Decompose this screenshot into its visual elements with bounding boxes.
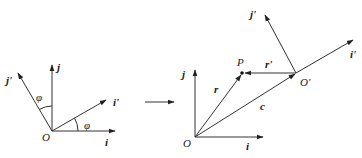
vector-c — [195, 74, 295, 137]
angle-label-top: φ — [36, 91, 42, 103]
point-p-label: P — [236, 56, 244, 68]
left-j-prime-label: j' — [4, 74, 12, 86]
angle-label-bottom: φ — [84, 119, 90, 131]
diagram-canvas: O i j i' j' φ φ O O' P i j i' j' r r' c — [0, 0, 362, 158]
right-frame: O O' P i j i' j' r r' c — [180, 8, 356, 152]
vector-r-label: r — [214, 83, 219, 95]
moving-origin-label: O' — [300, 76, 311, 88]
right-i-label: i — [246, 140, 250, 152]
angle-arc-top — [39, 106, 52, 109]
vector-c-label: c — [260, 100, 265, 112]
vector-r-prime-label: r' — [265, 58, 272, 70]
left-i-prime-label: i' — [113, 96, 119, 108]
left-j-label: j — [55, 61, 61, 73]
coordinate-frames-diagram: O i j i' j' φ φ O O' P i j i' j' r r' c — [0, 0, 362, 158]
angle-arc-bottom — [75, 118, 79, 131]
left-j-prime-axis — [18, 73, 52, 131]
point-p — [240, 71, 244, 75]
left-origin-label: O — [42, 131, 50, 143]
right-i-prime-axis — [296, 40, 353, 73]
right-origin-label: O — [183, 137, 191, 149]
right-i-prime-label: i' — [350, 48, 356, 60]
left-frame: O i j i' j' φ φ — [4, 61, 119, 148]
right-j-prime-label: j' — [248, 8, 256, 20]
left-i-prime-axis — [52, 100, 106, 131]
right-j-label: j — [180, 68, 186, 80]
left-i-label: i — [105, 136, 109, 148]
